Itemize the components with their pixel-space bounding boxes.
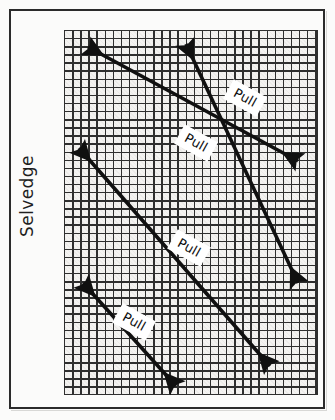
selvedge-label: Selvedge bbox=[17, 136, 37, 256]
grid-paper-grain bbox=[64, 30, 318, 395]
fabric-grain-grid bbox=[64, 30, 318, 395]
fabric-bias-diagram: Selvedge PullPullPullPull bbox=[0, 0, 335, 420]
